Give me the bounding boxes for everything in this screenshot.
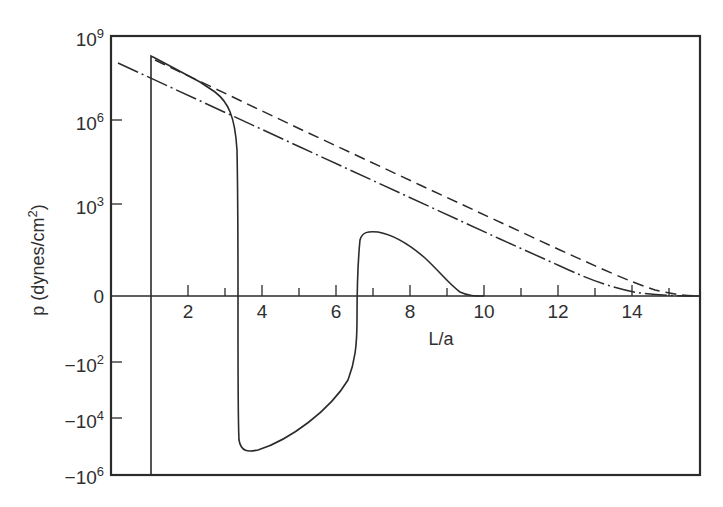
y-tick-label: −102 xyxy=(65,352,104,376)
plot-frame xyxy=(111,36,700,475)
x-tick-label: 14 xyxy=(621,301,643,322)
x-axis-title: L/a xyxy=(428,329,454,349)
y-tick-label: 103 xyxy=(76,194,104,218)
y-tick-label: −104 xyxy=(65,408,104,432)
y-tick-label: −106 xyxy=(65,464,104,488)
x-tick-labels: 2 4 6 8 10 12 14 xyxy=(183,301,643,322)
x-tick-label: 12 xyxy=(547,301,568,322)
y-ticks xyxy=(111,120,122,418)
y-tick-labels: 109 106 103 0 −102 −104 −106 xyxy=(65,26,104,488)
y-tick-label: 106 xyxy=(76,110,104,134)
x-tick-label: 2 xyxy=(183,301,194,322)
x-tick-label: 10 xyxy=(473,301,494,322)
y-tick-label: 109 xyxy=(76,26,104,50)
x-tick-label: 4 xyxy=(257,301,268,322)
chart: 2 4 6 8 10 12 14 L/a 109 106 103 0 −102 … xyxy=(0,0,723,507)
y-tick-label: 0 xyxy=(93,286,104,307)
y-axis-title: p (dynes/cm2) xyxy=(25,204,48,315)
x-tick-label: 6 xyxy=(331,301,342,322)
series-solid xyxy=(151,56,484,474)
x-tick-label: 8 xyxy=(405,301,416,322)
x-ticks xyxy=(188,285,669,296)
